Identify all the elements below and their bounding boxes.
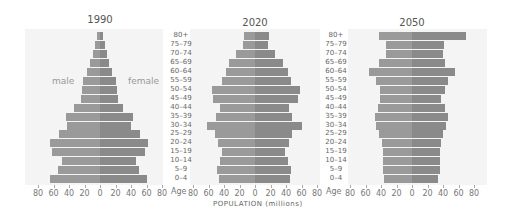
bar-female-20–24 [255,139,289,147]
x-tickmark [193,185,194,188]
x-tickmark [271,185,272,188]
bar-male-60–64 [87,68,100,76]
bar-male-80+ [379,32,412,40]
bar-female-25–29 [255,130,292,138]
bar-male-50–54 [380,86,412,94]
bar-female-75–79 [255,41,268,49]
age-label: 40–44 [319,103,353,112]
age-label: 35–39 [319,112,353,121]
female-label: female [128,76,159,86]
x-tickmark [131,185,132,188]
x-tickmark [459,185,460,188]
x-tick-label: 80 [309,189,325,198]
bar-female-60–64 [100,68,112,76]
x-tickmark [381,185,382,188]
x-tick-label: 60 [46,189,62,198]
bar-female-5–9 [100,166,139,174]
x-tick-label: 60 [294,189,310,198]
x-tickmark [209,185,210,188]
x-tick-label: 40 [373,189,389,198]
bar-female-35–39 [255,113,292,121]
bar-male-35–39 [375,113,412,121]
x-tickmark [286,185,287,188]
bar-male-50–54 [82,86,100,94]
bar-female-40–44 [100,104,123,112]
x-tick-label: 0 [92,189,108,198]
x-tickmark [302,185,303,188]
bar-female-35–39 [100,113,133,121]
x-tick-label: 0 [247,189,263,198]
x-tick-label: 60 [139,189,155,198]
age-label: 50–54 [319,85,353,94]
x-tick-label: 0 [404,189,420,198]
bar-male-60–64 [369,68,412,76]
x-tick-label: 40 [435,189,451,198]
bar-male-35–39 [216,113,255,121]
age-label: 20–24 [319,138,353,147]
bar-female-10–14 [412,157,440,165]
bar-male-20–24 [218,139,255,147]
bar-female-40–44 [255,104,289,112]
age-axis-label: Age [171,187,186,196]
x-axis-title: POPULATION (millions) [213,200,303,208]
bar-female-60–64 [255,68,288,76]
x-tick-label: 60 [451,189,467,198]
age-axis-label: Age [326,187,341,196]
age-label: 45–49 [319,94,353,103]
bar-female-25–29 [100,130,140,138]
x-tick-label: 40 [216,189,232,198]
x-tickmark [474,185,475,188]
age-label: 70–74 [319,49,353,58]
x-tick-label: 80 [342,189,358,198]
bar-male-55–59 [222,77,255,85]
bar-female-0–4 [412,175,438,183]
bar-male-0–4 [50,175,100,183]
bar-female-55–59 [412,77,448,85]
x-tick-label: 20 [77,189,93,198]
bar-male-0–4 [219,175,255,183]
bar-male-25–29 [379,130,412,138]
bar-male-10–14 [220,157,255,165]
bar-female-25–29 [412,130,443,138]
x-tickmark [162,185,163,188]
bar-female-70–74 [100,50,107,58]
age-label: 15–19 [319,147,353,156]
bar-male-30–34 [207,122,255,130]
bar-female-75–79 [100,41,105,49]
x-tickmark [116,185,117,188]
bar-male-10–14 [62,157,100,165]
bar-male-60–64 [226,68,255,76]
bar-male-5–9 [217,166,255,174]
bar-male-15–19 [222,148,255,156]
bar-female-45–49 [100,95,118,103]
bar-male-70–74 [93,50,100,58]
bar-female-70–74 [255,50,275,58]
bar-male-30–34 [376,122,412,130]
panel-title-2020: 2020 [225,17,285,28]
x-tickmark [428,185,429,188]
age-label: 25–29 [319,129,353,138]
bar-male-35–39 [66,113,100,121]
bar-male-65–69 [379,59,412,67]
x-tickmark [85,185,86,188]
bar-male-25–29 [59,130,100,138]
x-tick-label: 20 [420,189,436,198]
bar-male-20–24 [382,139,412,147]
age-label: 0–4 [164,174,198,183]
age-label: 45–49 [164,94,198,103]
bar-female-55–59 [100,77,116,85]
age-label: 10–14 [319,156,353,165]
bar-male-15–19 [383,148,412,156]
age-label: 30–34 [164,121,198,130]
age-label: 5–9 [164,165,198,174]
bar-female-80+ [100,32,103,40]
age-label: 80+ [164,31,198,40]
bar-female-50–54 [100,86,117,94]
bar-male-65–69 [90,59,100,67]
bar-male-70–74 [236,50,255,58]
bar-male-5–9 [383,166,412,174]
bar-female-15–19 [100,148,145,156]
age-label: 80+ [319,31,353,40]
x-tick-label: 80 [30,189,46,198]
bar-male-50–54 [212,86,255,94]
